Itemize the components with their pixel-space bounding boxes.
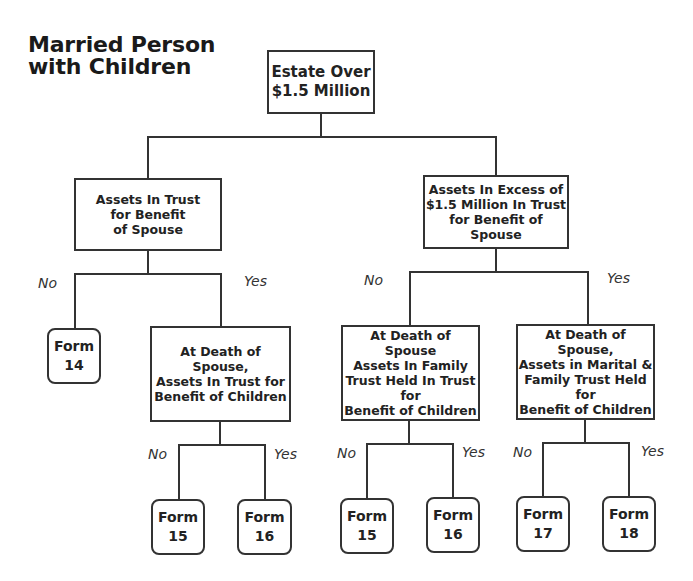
branch-label-yes: Yes xyxy=(462,444,485,460)
branch-label-no: No xyxy=(148,446,167,462)
branch-label-yes: Yes xyxy=(244,273,267,289)
branch-label-no: No xyxy=(364,272,383,288)
decision-text: At Death of Spouse Assets In Family Trus… xyxy=(343,328,478,418)
form-18-node: Form 18 xyxy=(602,496,656,552)
connector xyxy=(452,443,454,499)
connector xyxy=(584,419,586,444)
form-15-node: Form 15 xyxy=(151,499,205,555)
connector xyxy=(219,421,221,445)
form-label: Form xyxy=(158,508,198,527)
connector xyxy=(147,136,497,138)
form-14-node: Form 14 xyxy=(47,328,101,384)
decision-death-of-spouse-trust-children: At Death of Spouse, Assets In Trust for … xyxy=(150,326,291,422)
connector xyxy=(147,136,149,179)
form-label: Form xyxy=(54,337,94,356)
form-label: Form xyxy=(523,505,563,524)
connector xyxy=(542,442,544,498)
decision-death-of-spouse-family-trust: At Death of Spouse Assets In Family Trus… xyxy=(341,325,480,421)
branch-label-no: No xyxy=(337,445,356,461)
connector xyxy=(366,443,454,445)
connector xyxy=(495,248,497,273)
form-16-node: Form 16 xyxy=(426,497,480,553)
form-label: Form xyxy=(609,505,649,524)
decision-text: At Death of Spouse, Assets In Trust for … xyxy=(152,344,289,404)
connector xyxy=(408,420,410,445)
branch-label-no: No xyxy=(513,444,532,460)
connector xyxy=(178,444,266,446)
form-number: 16 xyxy=(443,525,462,544)
branch-label-no: No xyxy=(38,275,57,291)
decision-text: At Death of Spouse, Assets in Marital & … xyxy=(518,327,653,417)
connector xyxy=(409,271,411,326)
connector xyxy=(147,250,149,274)
root-node-estate-over: Estate Over $1.5 Million xyxy=(267,50,375,114)
connector xyxy=(178,444,180,500)
decision-death-of-spouse-marital-family-trust: At Death of Spouse, Assets in Marital & … xyxy=(516,324,655,420)
connector xyxy=(74,273,222,275)
form-16-node: Form 16 xyxy=(237,499,292,555)
branch-label-yes: Yes xyxy=(607,270,630,286)
form-label: Form xyxy=(347,507,387,526)
connector xyxy=(495,136,497,176)
form-number: 15 xyxy=(357,526,376,545)
branch-label-yes: Yes xyxy=(641,443,664,459)
connector xyxy=(628,442,630,497)
form-number: 16 xyxy=(255,527,274,546)
form-number: 18 xyxy=(619,524,638,543)
decision-text: Assets In Trust for Benefit of Spouse xyxy=(96,192,200,237)
diagram-title: Married Person with Children xyxy=(28,34,215,78)
form-number: 17 xyxy=(533,524,552,543)
form-17-node: Form 17 xyxy=(516,496,570,552)
branch-label-yes: Yes xyxy=(274,446,297,462)
form-label: Form xyxy=(244,508,284,527)
connector xyxy=(542,442,630,444)
connector xyxy=(320,113,322,138)
decision-assets-in-excess: Assets In Excess of $1.5 Million In Trus… xyxy=(423,175,569,249)
connector xyxy=(587,271,589,325)
connector xyxy=(220,273,222,327)
connector xyxy=(264,444,266,499)
connector xyxy=(366,443,368,499)
decision-text: Assets In Excess of $1.5 Million In Trus… xyxy=(425,182,567,242)
form-number: 15 xyxy=(168,527,187,546)
form-label: Form xyxy=(433,506,473,525)
title-line-1: Married Person xyxy=(28,34,215,56)
form-15-node: Form 15 xyxy=(340,498,394,554)
form-number: 14 xyxy=(64,356,83,375)
connector xyxy=(409,271,589,273)
decision-assets-in-trust-spouse: Assets In Trust for Benefit of Spouse xyxy=(74,178,222,251)
root-node-text: Estate Over $1.5 Million xyxy=(271,63,370,101)
connector xyxy=(74,273,76,329)
title-line-2: with Children xyxy=(28,56,215,78)
